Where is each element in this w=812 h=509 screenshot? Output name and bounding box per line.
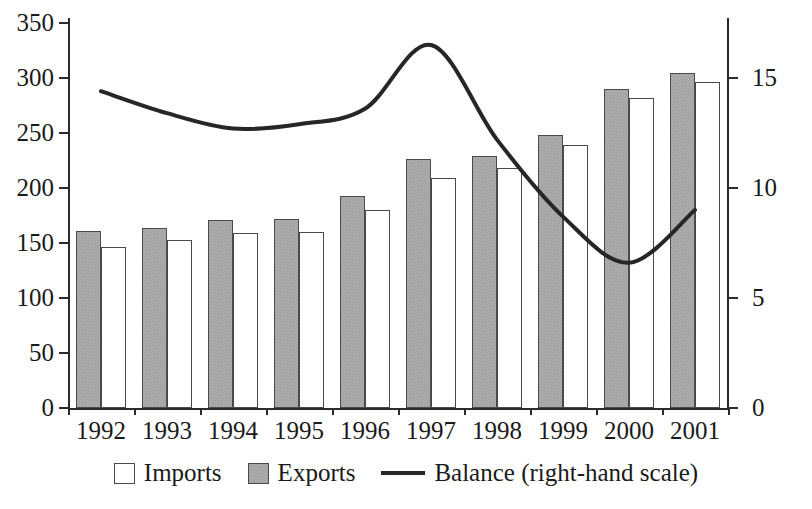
left-axis-tick: [59, 132, 68, 134]
bar-imports: [299, 232, 324, 408]
left-axis-tick-label: 200: [2, 175, 54, 200]
legend-swatch-imports-icon: [114, 463, 135, 484]
right-axis-tick-label: 5: [752, 285, 808, 310]
right-axis-tick: [729, 187, 738, 189]
legend-item-balance[interactable]: Balance (right-hand scale): [381, 458, 698, 488]
left-axis-tick-label: 250: [2, 120, 54, 145]
right-axis-tick: [729, 297, 738, 299]
left-axis-tick-label: 150: [2, 230, 54, 255]
left-axis-tick: [59, 407, 68, 409]
x-axis-tick-label: 2000: [596, 417, 662, 445]
bar-exports: [208, 220, 233, 408]
left-axis-tick: [59, 242, 68, 244]
bar-exports: [604, 89, 629, 408]
bar-exports: [472, 156, 497, 408]
bar-imports: [695, 82, 720, 408]
chart-container: 050100150200250300350 051015 19921993199…: [0, 0, 812, 509]
right-axis-tick: [729, 407, 738, 409]
bar-exports: [406, 159, 431, 408]
bar-imports: [629, 98, 654, 408]
legend-swatch-balance-line-icon: [381, 471, 425, 475]
right-axis-tick-label: 10: [752, 175, 808, 200]
x-axis-tick-label: 1995: [266, 417, 332, 445]
left-axis-tick-label: 100: [2, 285, 54, 310]
chart-legend: Imports Exports Balance (right-hand scal…: [0, 458, 812, 488]
bar-imports: [497, 168, 522, 408]
right-axis-tick-label: 0: [752, 395, 808, 420]
bar-imports: [431, 178, 456, 408]
legend-item-exports[interactable]: Exports: [248, 458, 356, 488]
x-axis-tick: [464, 408, 466, 415]
x-axis-tick-label: 1997: [398, 417, 464, 445]
bar-imports: [365, 210, 390, 408]
right-axis-tick: [729, 77, 738, 79]
bar-exports: [538, 135, 563, 408]
left-axis-tick-label: 350: [2, 10, 54, 35]
left-axis-tick: [59, 352, 68, 354]
legend-label-exports: Exports: [278, 458, 356, 488]
left-axis-tick: [59, 22, 68, 24]
left-axis-tick-label: 0: [2, 395, 54, 420]
x-axis-tick-label: 1998: [464, 417, 530, 445]
bar-imports: [563, 145, 588, 408]
left-axis-tick: [59, 297, 68, 299]
bar-imports: [101, 247, 126, 408]
bars-layer: [68, 23, 728, 408]
left-axis-tick: [59, 187, 68, 189]
x-axis-tick-label: 1994: [200, 417, 266, 445]
x-axis-tick: [398, 408, 400, 415]
bar-imports: [167, 240, 192, 408]
x-axis-tick: [134, 408, 136, 415]
bar-exports: [274, 219, 299, 408]
bar-exports: [340, 196, 365, 408]
legend-item-imports[interactable]: Imports: [114, 458, 222, 488]
x-axis-tick: [596, 408, 598, 415]
x-axis-tick-label: 1999: [530, 417, 596, 445]
x-axis-tick-label: 2001: [662, 417, 728, 445]
left-axis-tick-label: 300: [2, 65, 54, 90]
legend-swatch-exports-icon: [248, 463, 269, 484]
x-axis-tick: [662, 408, 664, 415]
x-axis-tick: [266, 408, 268, 415]
x-axis-tick: [728, 408, 730, 415]
x-axis-tick-label: 1992: [68, 417, 134, 445]
x-axis-tick-label: 1993: [134, 417, 200, 445]
bar-exports: [670, 73, 695, 409]
bar-exports: [76, 231, 101, 408]
x-axis-tick: [332, 408, 334, 415]
left-axis-tick-label: 50: [2, 340, 54, 365]
x-axis-tick: [68, 408, 70, 415]
legend-label-imports: Imports: [144, 458, 222, 488]
x-axis-tick: [200, 408, 202, 415]
x-axis-tick: [530, 408, 532, 415]
x-axis-tick-label: 1996: [332, 417, 398, 445]
bar-imports: [233, 233, 258, 408]
bar-exports: [142, 228, 167, 408]
legend-label-balance: Balance (right-hand scale): [434, 458, 698, 488]
right-axis-tick-label: 15: [752, 65, 808, 90]
left-axis-tick: [59, 77, 68, 79]
